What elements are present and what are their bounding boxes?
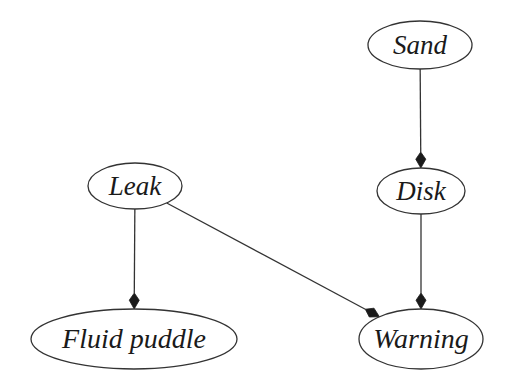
edge-line bbox=[167, 203, 366, 309]
node-leak: Leak bbox=[88, 163, 182, 209]
arrowhead-icon bbox=[365, 308, 379, 317]
edge-leak-to-warning bbox=[167, 203, 380, 317]
edge-leak-to-fluid_puddle bbox=[129, 209, 139, 309]
edge-disk-to-warning bbox=[416, 214, 426, 309]
node-disk: Disk bbox=[377, 168, 465, 214]
node-label: Disk bbox=[395, 176, 447, 206]
node-label: Sand bbox=[393, 30, 448, 60]
edge-line bbox=[420, 69, 421, 152]
node-label: Warning bbox=[373, 323, 468, 354]
bayesian-network-diagram: SandDiskLeakFluid puddleWarning bbox=[0, 0, 513, 387]
node-warning: Warning bbox=[359, 309, 483, 369]
nodes: SandDiskLeakFluid puddleWarning bbox=[31, 21, 483, 369]
node-sand: Sand bbox=[368, 21, 472, 69]
node-label: Fluid puddle bbox=[61, 323, 206, 354]
edge-line bbox=[134, 209, 135, 293]
node-fluid-puddle: Fluid puddle bbox=[31, 309, 237, 369]
arrowhead-icon bbox=[129, 293, 139, 309]
node-label: Leak bbox=[108, 171, 163, 201]
arrowhead-icon bbox=[416, 293, 426, 309]
edge-sand-to-disk bbox=[416, 69, 426, 168]
arrowhead-icon bbox=[416, 152, 426, 168]
